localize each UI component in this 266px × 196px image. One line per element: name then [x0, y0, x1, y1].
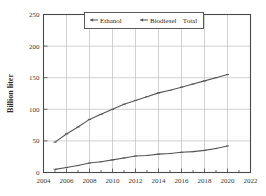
y-tick-label: 100: [29, 106, 40, 114]
x-tick-label: 2008: [83, 177, 98, 185]
y-tick-label: 0: [36, 169, 40, 177]
x-tick-label: 2004: [37, 177, 52, 185]
chart-container: 2004200620082010201220142016201820202022…: [0, 0, 266, 196]
x-tick-label: 2022: [244, 177, 259, 185]
y-tick-label: 50: [33, 137, 41, 145]
x-tick-label: 2018: [198, 177, 213, 185]
x-tick-label: 2016: [175, 177, 190, 185]
y-axis-title-text: Billion liter: [6, 74, 15, 113]
legend-label-ethanol: Ethanol: [100, 17, 122, 25]
x-tick-label: 2010: [106, 177, 121, 185]
x-axis-tick-labels: 2004200620082010201220142016201820202022: [37, 177, 259, 185]
legend-label-total: Total: [183, 17, 197, 25]
y-tick-label: 200: [29, 43, 40, 51]
y-tick-label: 250: [29, 11, 40, 19]
y-axis-title: Billion liter: [6, 74, 15, 113]
x-tick-label: 2006: [60, 177, 75, 185]
x-tick-label: 2014: [152, 177, 167, 185]
plot-border: [44, 15, 251, 173]
x-tick-label: 2020: [221, 177, 236, 185]
grid-lines: [44, 15, 251, 173]
x-tick-label: 2012: [129, 177, 144, 185]
legend-label-biodiesel: Biodiesel: [150, 17, 176, 25]
data-series-layer: [53, 75, 229, 170]
series-line-biodiesel: [55, 146, 228, 169]
y-tick-label: 150: [29, 74, 40, 82]
plot-frame: [44, 15, 251, 173]
line-chart: 2004200620082010201220142016201820202022…: [0, 0, 266, 196]
y-axis-tick-labels: 050100150200250: [29, 11, 40, 177]
axis-ticks: [44, 15, 251, 173]
chart-legend: EthanolBiodieselTotal: [85, 13, 204, 29]
series-line-total: [55, 75, 228, 143]
